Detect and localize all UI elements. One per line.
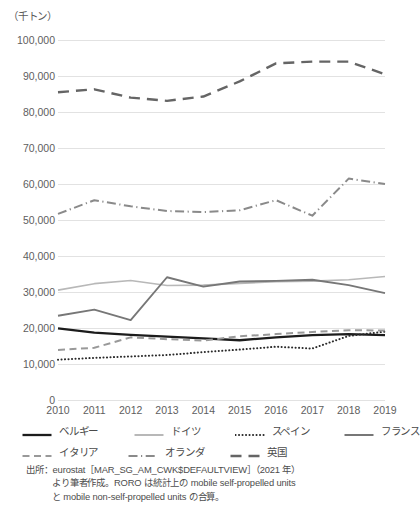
data-series-layer bbox=[58, 62, 385, 360]
legend-item-5[interactable]: オランダ bbox=[128, 444, 204, 459]
x-axis-tick-label: 2018 bbox=[337, 404, 360, 416]
legend-label: イタリア bbox=[59, 444, 98, 459]
source-note-line-1: 出所：eurostat［MAR_SG_AM_CWK$DEFAULTVIEW］（2… bbox=[0, 463, 390, 476]
legend-swatch-icon bbox=[128, 447, 158, 457]
legend-swatch-icon bbox=[235, 426, 265, 436]
x-axis-tick-label: 2014 bbox=[192, 404, 215, 416]
chart-legend: ベルギードイツスペインフランス イタリアオランダ英国 bbox=[0, 420, 390, 462]
series-line-2 bbox=[58, 332, 385, 360]
source-note-line-3: と mobile non-self-propelled units の合算。 bbox=[0, 490, 390, 503]
legend-item-2[interactable]: スペイン bbox=[235, 423, 310, 438]
x-axis-tick-label: 2013 bbox=[155, 404, 178, 416]
x-axis-tick-label: 2012 bbox=[119, 404, 142, 416]
x-axis-tick-label: 2011 bbox=[83, 404, 106, 416]
legend-label: 英国 bbox=[267, 444, 287, 459]
legend-label: スペイン bbox=[272, 423, 310, 438]
legend-row-1: ベルギードイツスペインフランス bbox=[0, 420, 390, 441]
source-note-line-2: より筆者作成。RORO は統計上の mobile self-propelled … bbox=[0, 476, 390, 489]
legend-row-2: イタリアオランダ英国 bbox=[0, 441, 390, 462]
plot-area bbox=[0, 22, 390, 404]
chart-canvas bbox=[0, 22, 390, 404]
series-line-6 bbox=[58, 62, 385, 101]
legend-item-3[interactable]: フランス bbox=[344, 423, 420, 438]
x-axis-tick-labels: 2010201120122013201420152016201720182019 bbox=[0, 402, 390, 420]
legend-swatch-icon bbox=[344, 426, 374, 436]
legend-item-0[interactable]: ベルギー bbox=[22, 423, 98, 438]
legend-item-6[interactable]: 英国 bbox=[230, 444, 287, 459]
x-axis-tick-label: 2016 bbox=[264, 404, 287, 416]
gridlines bbox=[58, 40, 385, 400]
y-axis-unit-label: （千トン） bbox=[8, 8, 57, 23]
legend-item-4[interactable]: イタリア bbox=[22, 444, 98, 459]
legend-swatch-icon bbox=[134, 426, 164, 436]
x-axis-tick-label: 2019 bbox=[373, 404, 396, 416]
legend-swatch-icon bbox=[22, 426, 52, 436]
legend-label: ドイツ bbox=[171, 423, 200, 438]
legend-label: フランス bbox=[381, 423, 420, 438]
legend-label: ベルギー bbox=[59, 423, 98, 438]
x-axis-tick-label: 2017 bbox=[301, 404, 324, 416]
x-axis-tick-label: 2010 bbox=[46, 404, 69, 416]
series-line-3 bbox=[58, 277, 385, 320]
legend-swatch-icon bbox=[22, 447, 52, 457]
legend-item-1[interactable]: ドイツ bbox=[134, 423, 200, 438]
x-axis-tick-label: 2015 bbox=[228, 404, 251, 416]
legend-swatch-icon bbox=[230, 447, 260, 457]
source-note: 出所：eurostat［MAR_SG_AM_CWK$DEFAULTVIEW］（2… bbox=[0, 463, 390, 503]
legend-label: オランダ bbox=[165, 444, 204, 459]
